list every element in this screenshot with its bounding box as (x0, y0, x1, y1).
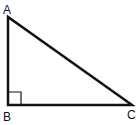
vertex-label-c: C (127, 108, 136, 122)
vertex-label-b: B (3, 110, 11, 124)
vertex-label-a: A (3, 3, 11, 17)
right-triangle-diagram: A B C (0, 0, 140, 125)
right-angle-marker (8, 92, 21, 105)
triangle-abc (8, 17, 132, 105)
